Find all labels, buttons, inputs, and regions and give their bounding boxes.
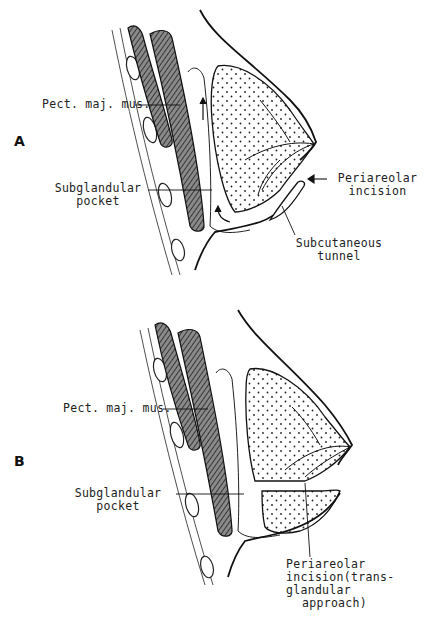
label-pect-maj-mus-a: Pect. maj. mus. <box>42 98 150 111</box>
label-text: tunnel <box>284 250 394 263</box>
label-text: approach) <box>286 597 394 610</box>
incision-arrow <box>308 175 327 183</box>
panel-b: B Pect. maj. mus. Subglandular pocket Pe… <box>0 305 430 625</box>
label-text: incision <box>330 185 425 198</box>
label-subglandular-pocket-a: Subglandular pocket <box>48 182 148 208</box>
panel-label-b: B <box>14 453 25 469</box>
figure-caption <box>0 633 430 642</box>
label-subglandular-pocket-b: Subglandular pocket <box>68 487 168 513</box>
label-subcutaneous-tunnel-a: Subcutaneous tunnel <box>284 237 394 263</box>
label-periareolar-incision-a: Periareolar incision <box>330 172 425 198</box>
gland-upper <box>246 369 350 481</box>
label-periareolar-incision-b: Periareolar incision(trans- glandular ap… <box>286 558 394 610</box>
label-text: pocket <box>48 195 148 208</box>
label-text: pocket <box>68 500 168 513</box>
gland-lower <box>262 490 340 533</box>
panel-a: A Pect. maj. mus. Subglandular pocket Pe… <box>0 0 430 300</box>
label-pect-maj-mus-b: Pect. maj. mus. <box>63 402 171 415</box>
panel-label-a: A <box>14 133 25 149</box>
